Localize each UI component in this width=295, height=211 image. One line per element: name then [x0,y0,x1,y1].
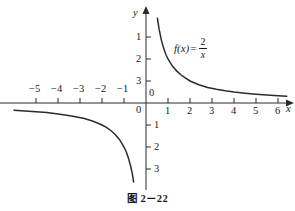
origin-label-lower: 0 [136,105,141,116]
x-tick-label-2: 2 [187,106,192,117]
x-tick-label-6: 6 [275,106,280,117]
y-axis-label: y [133,8,138,19]
y-tick-label-neg3: 3 [154,164,159,175]
graph-canvas [0,0,295,190]
x-tick-label-neg5: −5 [29,84,40,95]
x-tick-label-neg4: −4 [51,84,62,95]
y-tick-label-neg2: 2 [154,142,159,153]
fraction-denominator: x [199,48,207,60]
hyperbola-branch-negative [14,110,134,182]
x-tick-label-3: 3 [209,106,214,117]
y-axis-arrow-icon [143,6,150,14]
plot-area: y x −5 −4 −3 −2 −1 1 2 3 4 5 6 3 2 1 1 2… [0,0,295,190]
function-name: f(x) [174,43,189,54]
fraction-numerator: 2 [198,37,207,48]
y-tick-label-3: 1 [136,32,141,43]
x-tick-label-4: 4 [231,106,236,117]
figure-caption: 图 2－22 [0,190,295,205]
origin-label-upper: 0 [149,88,154,99]
x-tick-label-neg2: −2 [95,84,106,95]
function-annotation: f(x) = 2 x [174,37,207,60]
x-tick-label-1: 1 [165,106,170,117]
fraction: 2 x [198,37,207,60]
y-tick-label-2: 2 [136,54,141,65]
equals-sign: = [190,43,196,54]
x-axis-label: x [286,104,291,115]
y-tick-label-neg1: 1 [154,120,159,131]
x-tick-label-neg3: −3 [73,84,84,95]
x-tick-label-5: 5 [253,106,258,117]
x-tick-label-neg1: −1 [117,84,128,95]
figure-container: y x −5 −4 −3 −2 −1 1 2 3 4 5 6 3 2 1 1 2… [0,0,295,211]
y-tick-label-1: 3 [136,76,141,87]
